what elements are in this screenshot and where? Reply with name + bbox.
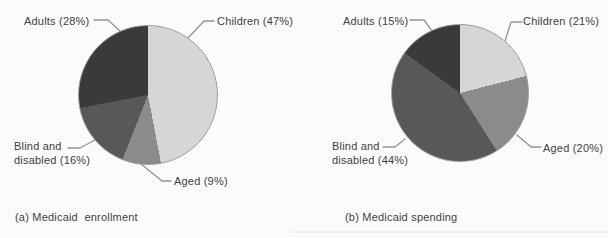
enrollment-blind-disabled-label: Blind and disabled (16%) [14,139,98,167]
chart-medicaid-enrollment: Adults (28%) Children (47%) Blind and di… [0,0,304,238]
enrollment-caption: (a) Medicaid enrollment [15,211,138,223]
spending-children-label: Children (21%) [523,14,599,28]
children-leader-line [505,22,522,41]
medicaid-pie-figure: Adults (28%) Children (47%) Blind and di… [0,0,608,238]
enrollment-pie-chart [78,25,218,165]
enrollment-children-label: Children (47%) [217,14,293,28]
aged-leader-line [517,135,541,147]
scan-artifact-line [290,231,608,233]
chart-medicaid-spending: Adults (15%) Children (21%) Blind and di… [304,0,608,238]
children-leader-line [188,21,214,38]
enrollment-adults-label: Adults (28%) [24,14,89,28]
adults-leader-line [94,20,120,31]
spending-aged-label: Aged (20%) [543,141,603,155]
spending-blind-disabled-label: Blind and disabled (44%) [332,139,422,167]
adults-leader-line [410,20,432,31]
enrollment-aged-label: Aged (9%) [174,174,228,188]
spending-adults-label: Adults (15%) [343,14,408,28]
spending-caption: (b) Medicaid spending [345,211,457,223]
aged-leader-line [141,164,171,181]
